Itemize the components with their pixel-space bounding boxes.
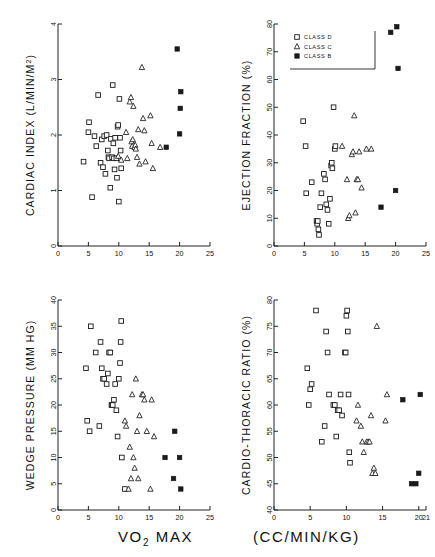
x-axis-label-svg: VO2 MAX(CC/MIN/KG) [0, 0, 435, 557]
figure-container: 051015202501234CARDIAC INDEX (L/MIN/M2)0… [0, 0, 435, 557]
x-axis-units-label: (CC/MIN/KG) [253, 528, 360, 545]
x-axis-label: VO2 MAX [118, 528, 193, 548]
